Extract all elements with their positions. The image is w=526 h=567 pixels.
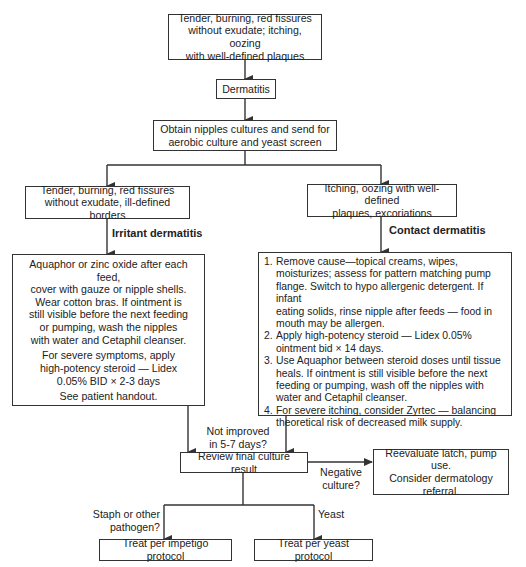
step-number: 2. — [264, 330, 276, 355]
contact-step-2: 2. Apply high-potency steroid — Lidex 0.… — [264, 330, 506, 355]
contact-step-1: 1. Remove cause—topical creams, wipes, m… — [264, 256, 506, 330]
negative-line-1: Negative — [312, 466, 370, 479]
step-number: 3. — [264, 355, 276, 405]
severe-symptoms-line-2: high-potency steroid — Lidex — [17, 362, 200, 375]
step-1-line: moisturizes; assess for pattern matching… — [276, 268, 506, 280]
step-2-line: ointment bid × 14 days. — [276, 343, 472, 355]
cultures-box: Obtain nipples cultures and send for aer… — [153, 120, 337, 151]
yeast-protocol-label: Treat per yeast protocol — [259, 537, 368, 562]
severe-symptoms-line-3: 0.05% BID × 2-3 days — [17, 375, 200, 388]
staph-line-2: pathogen? — [86, 521, 160, 534]
dermatitis-label: Dermatitis — [221, 83, 271, 96]
step-4-line: For severe itching, consider Zyrtec — ba… — [276, 405, 496, 417]
impetigo-protocol-box: Treat per impetigo protocol — [99, 539, 232, 561]
dermatitis-flowchart: Tender, burning, red fissures without ex… — [0, 0, 526, 567]
dermatitis-box: Dermatitis — [216, 79, 276, 99]
step-1-line: flange. Switch to hypo allergenic deterg… — [276, 281, 506, 306]
review-culture-box: Review final culture result — [180, 452, 308, 473]
contact-treatment-box: 1. Remove cause—topical creams, wipes, m… — [258, 252, 512, 416]
impetigo-label: Treat per impetigo protocol — [104, 537, 227, 562]
patient-handout-note: See patient handout. — [17, 390, 200, 403]
irritant-presentation-box: Tender, burning, red fissures without ex… — [25, 186, 190, 219]
step-1-line: mouth may be allergen. — [276, 318, 506, 330]
reevaluate-box: Reevaluate latch, pump use. Consider der… — [373, 449, 509, 495]
step-3-line: feeding or pumping, wash off the nipples… — [276, 380, 501, 392]
severe-symptoms-line-1: For severe symptoms, apply — [17, 349, 200, 362]
irritant-treatment-line-1: Aquaphor or zinc oxide after each feed, — [17, 258, 200, 283]
negative-line-2: culture? — [312, 479, 370, 492]
presentation-box: Tender, burning, red fissures without ex… — [168, 14, 322, 60]
irritant-treatment-line-4: still visible before the next feeding — [17, 308, 200, 321]
presentation-line-3: with well-defined plaques — [173, 50, 317, 63]
irritant-treatment-line-2: cover with gauze or nipple shells. — [17, 283, 200, 296]
reevaluate-line-1: Reevaluate latch, pump use. — [378, 447, 504, 472]
step-3-line: Use Aquaphor between steroid doses until… — [276, 355, 501, 367]
cultures-line-2: aerobic culture and yeast screen — [158, 136, 332, 149]
presentation-line-2: without exudate; itching, oozing — [173, 24, 317, 49]
contact-presentation-box: Itching, oozing with well-defined plaque… — [307, 184, 457, 217]
contact-presentation-line-2: plaques, excoriations — [312, 207, 452, 220]
step-1-line: eating solids, rinse nipple after feeds … — [276, 306, 506, 318]
contact-dermatitis-label: Contact dermatitis — [389, 224, 486, 237]
reevaluate-line-2: Consider dermatology — [378, 472, 504, 485]
negative-culture-label: Negative culture? — [312, 466, 370, 491]
presentation-line-1: Tender, burning, red fissures — [173, 12, 317, 25]
step-1-line: Remove cause—topical creams, wipes, — [276, 256, 506, 268]
staph-pathogen-label: Staph or other pathogen? — [86, 508, 160, 533]
irritant-treatment-line-5: or pumping, wash the nipples — [17, 321, 200, 334]
cultures-line-1: Obtain nipples cultures and send for — [158, 123, 332, 136]
contact-step-4: 4. For severe itching, consider Zyrtec —… — [264, 405, 506, 430]
contact-presentation-line-1: Itching, oozing with well-defined — [312, 182, 452, 207]
step-3-line: heals. If ointment is still visible befo… — [276, 368, 501, 380]
step-2-line: Apply high-potency steroid — Lidex 0.05% — [276, 330, 472, 342]
yeast-label: Yeast — [318, 508, 344, 521]
step-3-line: water and Cetaphil cleanser. — [276, 392, 501, 404]
step-4-line: theoretical risk of decreased milk suppl… — [276, 417, 496, 429]
irritant-presentation-line-2: without exudate, ill-defined borders — [30, 196, 185, 221]
not-improved-line-2: in 5-7 days? — [200, 438, 276, 451]
review-label: Review final culture result — [185, 450, 303, 475]
yeast-protocol-box: Treat per yeast protocol — [254, 539, 373, 561]
not-improved-label: Not improved in 5-7 days? — [200, 425, 276, 450]
contact-step-3: 3. Use Aquaphor between steroid doses un… — [264, 355, 506, 405]
reevaluate-line-3: referral. — [378, 485, 504, 498]
step-number: 1. — [264, 256, 276, 330]
irritant-treatment-line-3: Wear cotton bras. If ointment is — [17, 296, 200, 309]
irritant-treatment-box: Aquaphor or zinc oxide after each feed, … — [12, 254, 205, 406]
irritant-dermatitis-label: Irritant dermatitis — [112, 227, 202, 240]
staph-line-1: Staph or other — [86, 508, 160, 521]
irritant-treatment-line-6: with water and Cetaphil cleanser. — [17, 334, 200, 347]
not-improved-line-1: Not improved — [200, 425, 276, 438]
irritant-presentation-line-1: Tender, burning, red fissures — [30, 184, 185, 197]
